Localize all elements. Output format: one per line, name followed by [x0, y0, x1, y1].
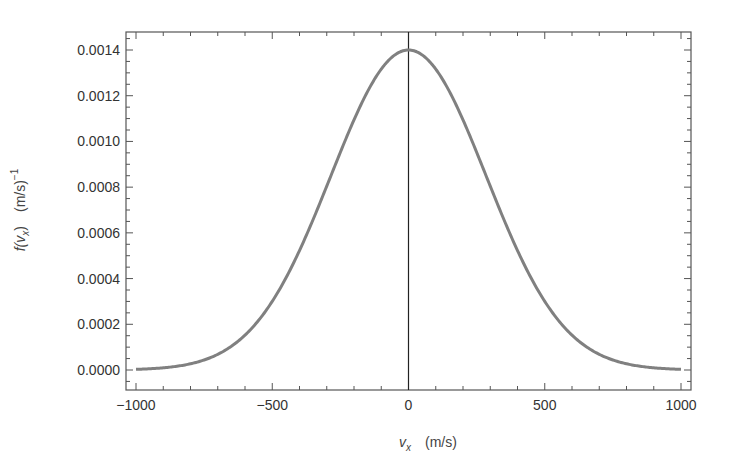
y-axis-label-sup: −1 [9, 168, 20, 180]
y-tick-label: 0.0008 [77, 179, 120, 195]
x-tick-labels: −1000−50005001000 [116, 397, 696, 413]
y-tick-label: 0.0014 [77, 42, 120, 58]
x-tick-label: 0 [405, 397, 413, 413]
y-axis-label-func: f(v [12, 235, 28, 252]
y-tick-label: 0.0012 [77, 88, 120, 104]
y-tick-labels: 0.00000.00020.00040.00060.00080.00100.00… [77, 42, 120, 378]
x-axis-label-unit: (m/s) [425, 434, 457, 450]
y-tick-label: 0.0000 [77, 362, 120, 378]
x-tick-label: 500 [533, 397, 557, 413]
y-axis-label: f(vx)(m/s)−1 [9, 168, 31, 251]
chart: −1000−50005001000 0.00000.00020.00040.00… [0, 0, 731, 469]
y-axis-label-close: ) [12, 226, 28, 231]
x-tick-label: −500 [256, 397, 288, 413]
x-tick-label: −1000 [116, 397, 156, 413]
y-tick-label: 0.0010 [77, 133, 120, 149]
x-axis-label: vx(m/s) [399, 434, 457, 453]
y-tick-label: 0.0006 [77, 225, 120, 241]
y-tick-label: 0.0004 [77, 271, 120, 287]
y-axis-label-unit: (m/s) [12, 180, 28, 212]
x-tick-label: 1000 [665, 397, 696, 413]
x-axis-label-sub: x [405, 442, 412, 453]
y-tick-label: 0.0002 [77, 316, 120, 332]
